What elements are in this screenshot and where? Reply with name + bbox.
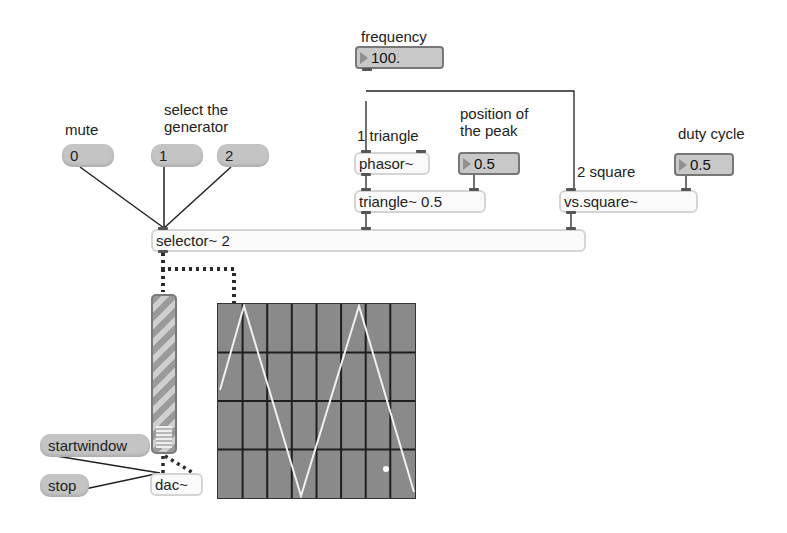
startwindow-message[interactable]: startwindow [40, 434, 150, 457]
selector-object[interactable]: selector~ 2 [151, 229, 586, 252]
frequency-value: 100. [371, 49, 400, 66]
phasor-inlet-right[interactable] [416, 150, 426, 153]
square-inlet-right[interactable] [681, 188, 691, 191]
phasor-object[interactable]: phasor~ [354, 152, 430, 175]
generator-1-message[interactable]: 1 [151, 144, 203, 167]
selector-inlet-2[interactable] [566, 227, 576, 230]
meter-level-bar [156, 426, 172, 448]
stop-message[interactable]: stop [40, 474, 89, 497]
comment-duty-cycle: duty cycle [678, 125, 745, 142]
triangle-outlet[interactable] [361, 211, 371, 214]
triangle-inlet[interactable] [361, 188, 371, 191]
comment-select-generator: select the generator [164, 101, 228, 135]
frequency-number-box[interactable]: 100. [355, 46, 444, 69]
number-arrow-icon [463, 158, 471, 170]
number-arrow-icon [360, 52, 368, 64]
comment-square: 2 square [577, 163, 635, 180]
oscilloscope-display[interactable] [217, 303, 416, 499]
selector-inlet-1[interactable] [361, 227, 371, 230]
duty-cycle-number-box[interactable]: 0.5 [674, 153, 734, 176]
generator-2-message[interactable]: 2 [217, 144, 269, 167]
comment-mute: mute [65, 121, 98, 138]
selector-inlet-control[interactable] [158, 227, 168, 230]
square-inlet[interactable] [566, 188, 576, 191]
comment-triangle: 1 triangle [357, 127, 419, 144]
dac-object[interactable]: dac~ [150, 473, 203, 496]
triangle-object[interactable]: triangle~ 0.5 [354, 190, 486, 213]
phasor-outlet[interactable] [361, 173, 371, 176]
outlet[interactable] [362, 68, 372, 71]
duty-cycle-value: 0.5 [690, 156, 711, 173]
square-outlet[interactable] [566, 211, 576, 214]
number-arrow-icon [679, 159, 687, 171]
vs-square-object[interactable]: vs.square~ [559, 190, 698, 213]
level-meter[interactable] [151, 294, 177, 454]
peak-position-value: 0.5 [474, 155, 495, 172]
comment-peak-position: position of the peak [460, 105, 528, 139]
peak-position-number-box[interactable]: 0.5 [458, 152, 520, 175]
scope-graph [218, 304, 415, 498]
selector-outlet[interactable] [158, 250, 168, 253]
comment-frequency: frequency [361, 28, 427, 45]
mute-message[interactable]: 0 [62, 144, 114, 167]
phasor-inlet[interactable] [361, 150, 371, 153]
triangle-inlet-right[interactable] [469, 188, 479, 191]
